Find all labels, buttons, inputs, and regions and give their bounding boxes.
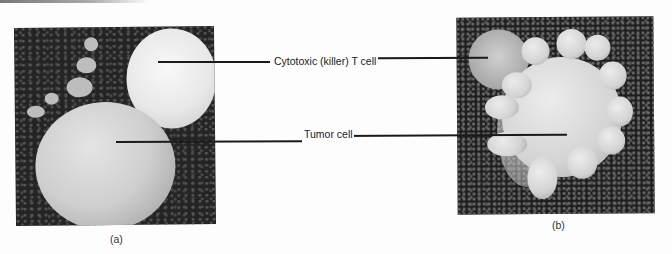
bleb [556,29,586,59]
bleb [567,147,597,179]
bleb [607,96,633,126]
caption-panel-b: (b) [552,219,565,231]
t-cell-process [66,77,92,97]
micrograph-panel-b [456,16,654,214]
bleb [502,72,532,98]
caption-panel-a: (a) [110,233,123,245]
t-cell-process [84,37,98,51]
label-tumor-cell: Tumor cell [303,128,354,140]
leader-line-tumor-a [116,140,302,143]
bleb [584,35,610,61]
bleb [485,95,519,119]
bleb [599,62,627,90]
bleb [527,157,557,199]
bleb [521,37,549,65]
bleb [597,127,625,155]
t-cell-process [45,93,59,105]
t-cell-process [76,57,96,73]
t-cell-process [27,106,45,118]
leader-line-tcell-a [158,61,270,63]
scan-artifact [0,0,150,3]
tumor-cell-a [35,101,176,226]
label-cytotoxic-t-cell: Cytotoxic (killer) T cell [273,55,377,67]
micrograph-panel-a [14,26,216,226]
